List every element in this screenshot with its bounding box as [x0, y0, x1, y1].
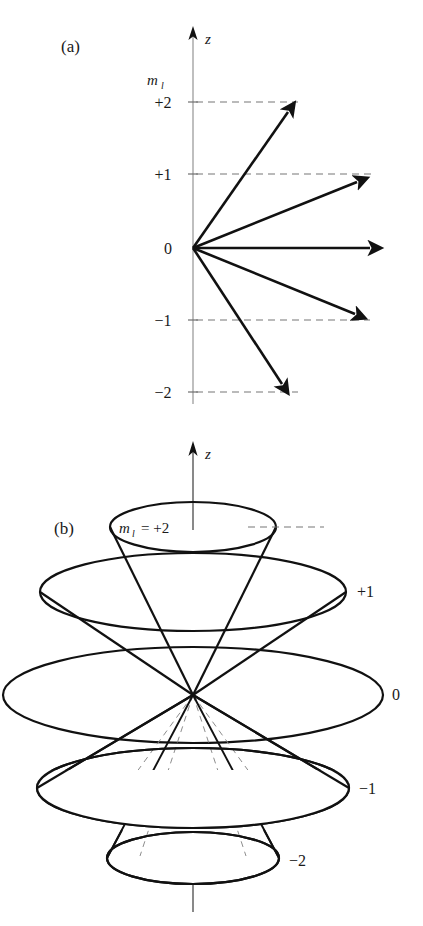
panel-b-ellipse-ml-minus2-front — [107, 832, 279, 884]
panel-b-cone-ml-zero: 0 — [3, 647, 400, 743]
panel-b-z-axis: z — [188, 441, 211, 912]
panel-a-z-axis: z — [188, 26, 211, 404]
figure-container: (a) z m l +2 +1 0 −1 — [0, 0, 423, 926]
panel-b-axis-label: z — [204, 446, 211, 462]
panel-b-cone-label-minus1: −1 — [359, 780, 376, 797]
panel-a-vectors — [193, 112, 370, 384]
panel-b-cone-label-plus1: +1 — [357, 583, 374, 600]
panel-b-occlusion-masks — [37, 695, 349, 828]
panel-a-axis-label: z — [204, 31, 211, 47]
panel-a-tick-label-plus1: +1 — [154, 166, 171, 183]
panel-a-ml-subscript: l — [161, 80, 164, 91]
panel-b-cone-label-minus2: −2 — [289, 852, 306, 869]
panel-b-cone-ml-plus2: m l = +2 — [110, 502, 324, 695]
panel-a-label: (a) — [61, 37, 80, 56]
panel-a-vector-ml-minus2 — [193, 248, 282, 384]
panel-b-cone-label-zero: 0 — [392, 686, 400, 703]
panel-b-ml-symbol: m — [119, 520, 130, 536]
panel-a-vector-ml-minus1 — [193, 248, 355, 314]
angular-momentum-figure: (a) z m l +2 +1 0 −1 — [0, 0, 423, 926]
panel-b-cone-side-left-plus1 — [40, 592, 193, 695]
panel-b-cone-side-right-plus1 — [193, 592, 346, 695]
panel-a-tick-label-plus2: +2 — [154, 94, 171, 111]
panel-b-cone-ml-plus1: +1 — [40, 553, 374, 695]
panel-a-tick-label-zero: 0 — [164, 240, 172, 257]
panel-a-tick-label-minus1: −1 — [154, 312, 171, 329]
panel-b-label: (b) — [54, 519, 74, 538]
panel-a-tick-label-minus2: −2 — [154, 384, 171, 401]
panel-b-ml-value: = +2 — [141, 520, 169, 536]
panel-b-ml-subscript: l — [132, 528, 135, 539]
panel-a-ml-header: m l — [147, 72, 164, 91]
panel-b-mask-minus1-front — [37, 770, 349, 828]
panel-b: (b) z 0 +1 — [3, 441, 400, 912]
panel-a-ml-symbol: m — [147, 72, 158, 88]
panel-b-ml-plus2-label: m l = +2 — [119, 520, 169, 539]
panel-a: (a) z m l +2 +1 0 −1 — [61, 26, 372, 404]
panel-b-ellipse-ml-plus1 — [40, 553, 346, 631]
panel-b-cone-ml-minus2-front — [107, 830, 279, 884]
panel-a-ticks: +2 +1 0 −1 −2 — [154, 94, 198, 401]
